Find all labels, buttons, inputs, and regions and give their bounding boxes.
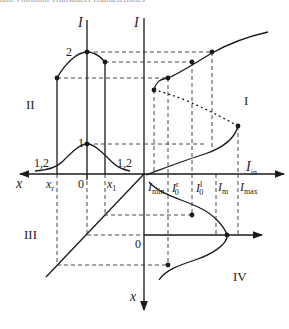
tick-x-r: xr bbox=[46, 178, 54, 193]
quadrant-i-label: I bbox=[244, 94, 248, 107]
origin-top-label: 0 bbox=[78, 178, 84, 190]
tick-i0-l: Il0 bbox=[196, 181, 203, 197]
tick-i-m: Im bbox=[218, 181, 228, 196]
diagonal-line bbox=[46, 174, 144, 277]
right-axis-label: I bbox=[134, 16, 139, 30]
tick-i-max: Imax bbox=[240, 181, 258, 196]
curve-1-label: 1 bbox=[78, 137, 84, 149]
x-axis-label-left: x bbox=[16, 177, 22, 191]
quadrant-iii-label: III bbox=[24, 228, 37, 241]
curve-2 bbox=[57, 52, 105, 78]
upper-branch bbox=[154, 32, 268, 90]
curve-2-label: 2 bbox=[66, 46, 72, 58]
tick-i0-r: Ir0 bbox=[172, 181, 179, 197]
output-curve bbox=[149, 182, 227, 280]
tick-x-1: x1 bbox=[107, 178, 116, 193]
i-in-axis-label: Iin bbox=[246, 160, 257, 177]
i-in-sub: in bbox=[251, 168, 257, 177]
tail-right-label: 1,2 bbox=[117, 157, 132, 169]
tail-left-label: 1,2 bbox=[34, 157, 49, 169]
x-axis-label-bottom: x bbox=[130, 290, 136, 304]
tick-x-1-sub: 1 bbox=[112, 184, 116, 193]
quadrant-ii-label: II bbox=[26, 98, 35, 111]
tick-x-r-sub: r bbox=[51, 184, 54, 193]
left-axis-label: I bbox=[78, 16, 83, 30]
quadrant-iv-label: IV bbox=[233, 270, 247, 283]
origin-bottom-label: 0 bbox=[135, 238, 141, 250]
tick-i-min: Imin bbox=[148, 181, 164, 196]
